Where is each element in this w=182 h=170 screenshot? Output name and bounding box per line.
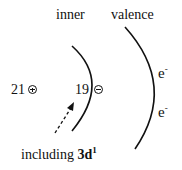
plus-circle-icon xyxy=(28,85,37,94)
minus-circle-icon xyxy=(94,85,103,94)
orbital-label: 3d xyxy=(77,147,92,162)
valence-shell-arc xyxy=(125,27,154,149)
inner-electrons-label: 19 xyxy=(75,83,103,97)
dashed-arrow-line xyxy=(55,108,71,133)
inner-shell-label: inner xyxy=(56,8,85,22)
valence-shell-label: valence xyxy=(111,8,154,22)
shielding-diagram: inner valence 21 19 e- e- including 3d1 xyxy=(0,0,182,170)
valence-electron-1: e- xyxy=(158,66,168,81)
inner-electron-count: 19 xyxy=(75,82,89,97)
arrow-head-icon xyxy=(67,102,74,111)
valence-electron-2: e- xyxy=(158,105,168,120)
nucleus-label: 21 xyxy=(11,83,37,97)
nucleus-charge: 21 xyxy=(11,82,25,97)
annotation-label: including 3d1 xyxy=(21,148,97,162)
